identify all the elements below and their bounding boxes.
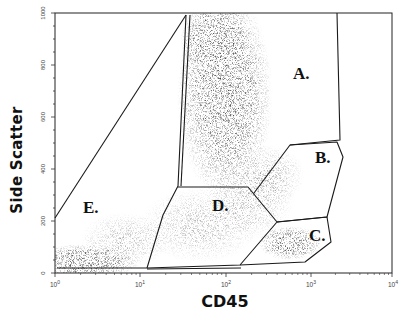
y-axis-label: Side Scatter — [2, 95, 32, 225]
y-tick-200: 200 — [33, 216, 53, 226]
y-tick-600: 600 — [33, 112, 53, 122]
gate-label-d: D. — [212, 196, 229, 216]
y-tick-1000: 1000 — [33, 8, 53, 18]
y-axis-ticks — [51, 13, 55, 273]
y-tick-0: 0 — [33, 268, 53, 278]
y-tick-400: 400 — [33, 164, 53, 174]
y-axis-title: Side Scatter — [8, 106, 26, 213]
x-axis-ticks — [55, 273, 392, 277]
gate-label-a: A. — [293, 64, 310, 84]
gate-e-diagonal — [55, 15, 186, 218]
y-tick-800: 800 — [33, 60, 53, 70]
x-tick-10e0: 100 — [50, 279, 60, 288]
gate-label-c: C. — [309, 226, 326, 246]
x-tick-10e1: 101 — [135, 279, 145, 288]
x-tick-10e3: 103 — [306, 279, 316, 288]
scatter-plot — [0, 0, 409, 322]
gate-label-e: E. — [83, 198, 99, 218]
x-tick-10e4: 104 — [388, 279, 398, 288]
density-clouds — [40, 0, 322, 278]
x-axis-label: CD45 — [180, 292, 270, 311]
gate-label-b: B. — [315, 148, 331, 168]
x-tick-10e2: 102 — [221, 279, 231, 288]
